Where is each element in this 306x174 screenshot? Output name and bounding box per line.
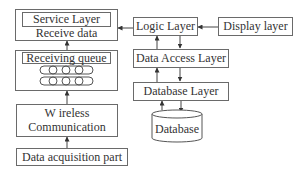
service-layer-subtitle: Receive data — [22, 26, 111, 40]
receiving-queue-title: Receiving queue — [22, 51, 111, 65]
data-acquisition-label: Data acquisition part — [16, 150, 128, 164]
database-label: Database — [152, 122, 202, 136]
service-layer-title: Service Layer — [22, 12, 111, 26]
wireless-line1: W ireless — [16, 106, 118, 120]
database-layer-label: Database Layer — [133, 84, 229, 98]
display-layer-label: Display layer — [218, 19, 293, 33]
data-access-layer-label: Data Access Layer — [133, 51, 229, 65]
wireless-line2: Communication — [16, 120, 118, 134]
logic-layer-label: Logic Layer — [133, 19, 198, 33]
